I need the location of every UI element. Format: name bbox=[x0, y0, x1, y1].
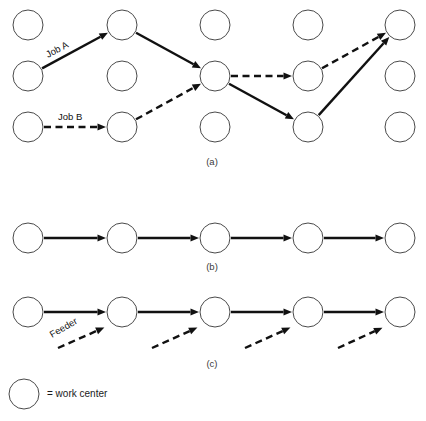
panel-c-main-seg-1-arrowhead bbox=[98, 308, 107, 315]
work-center-node bbox=[293, 10, 323, 40]
panel-c-main-seg-1 bbox=[44, 308, 106, 315]
work-center-node bbox=[200, 112, 230, 142]
panel-caption-a: (a) bbox=[206, 156, 218, 167]
panel-a-job-b-seg-4-arrowhead bbox=[377, 33, 386, 40]
panel-a-job-b-seg-1 bbox=[44, 123, 106, 130]
work-center-node bbox=[385, 10, 415, 40]
panel-b-line-seg-4-arrowhead bbox=[376, 234, 385, 241]
panel-b-line-seg-1-arrowhead bbox=[98, 234, 107, 241]
panels-layer: Job AJob B(a)(b)Feeder(c) bbox=[13, 10, 415, 369]
panel-b-line-seg-3 bbox=[231, 234, 292, 241]
job-b-label: Job B bbox=[58, 111, 82, 122]
panel-c-main-seg-2-arrowhead bbox=[191, 308, 200, 315]
work-center-node bbox=[107, 61, 137, 91]
work-center-node bbox=[385, 223, 415, 253]
panel-c-feeder-arrow-1-arrowhead bbox=[95, 327, 104, 334]
work-center-node bbox=[107, 297, 137, 327]
work-center-node bbox=[13, 61, 43, 91]
legend-work-center-icon bbox=[9, 379, 39, 409]
panel-a: Job AJob B(a) bbox=[13, 10, 415, 167]
panel-c-feeder-arrow-2-shaft bbox=[152, 331, 190, 348]
panel-a-job-a-seg-3 bbox=[229, 84, 294, 120]
panel-a-job-a-seg-2-shaft bbox=[136, 33, 193, 65]
panel-b-line-seg-1 bbox=[44, 234, 106, 241]
work-center-node bbox=[200, 10, 230, 40]
panel-c-feeder-arrow-2 bbox=[152, 328, 197, 348]
panel-c-main-seg-4-arrowhead bbox=[376, 308, 385, 315]
panel-c-main-seg-3-arrowhead bbox=[284, 308, 293, 315]
panel-a-job-a-seg-2 bbox=[136, 33, 201, 69]
work-center-node bbox=[200, 297, 230, 327]
panel-a-job-b-seg-2-shaft bbox=[136, 88, 193, 120]
work-center-node bbox=[293, 223, 323, 253]
legend-layer: = work center bbox=[9, 379, 108, 409]
work-center-node bbox=[293, 112, 323, 142]
panel-a-job-b-seg-3 bbox=[231, 72, 292, 79]
panel-b: (b) bbox=[13, 223, 415, 272]
figure-root: Job AJob B(a)(b)Feeder(c) = work center bbox=[0, 0, 426, 421]
work-center-node bbox=[13, 112, 43, 142]
work-center-node bbox=[13, 297, 43, 327]
panel-b-line-seg-4 bbox=[324, 234, 384, 241]
panel-c-feeder-arrow-4-shaft bbox=[338, 331, 375, 348]
panel-a-job-a-seg-4 bbox=[319, 37, 390, 115]
panel-a-job-a-seg-3-shaft bbox=[229, 84, 286, 116]
panel-c-feeder-arrow-3 bbox=[245, 328, 290, 348]
panel-c-main-seg-4 bbox=[324, 308, 384, 315]
job-a-label: Job A bbox=[44, 39, 71, 60]
panel-a-job-b-seg-3-arrowhead bbox=[284, 72, 293, 79]
work-center-flow-diagram: Job AJob B(a)(b)Feeder(c) = work center bbox=[0, 0, 426, 421]
panel-c-feeder-arrow-4 bbox=[338, 328, 382, 348]
work-center-node bbox=[107, 10, 137, 40]
work-center-node bbox=[200, 61, 230, 91]
work-center-node bbox=[293, 297, 323, 327]
legend-label: = work center bbox=[47, 388, 108, 399]
panel-a-job-b-seg-1-arrowhead bbox=[98, 123, 107, 130]
panel-a-job-b-seg-2 bbox=[136, 84, 201, 120]
panel-c-main-seg-2 bbox=[138, 308, 199, 315]
work-center-node bbox=[200, 223, 230, 253]
panel-caption-b: (b) bbox=[206, 261, 218, 272]
panel-c-feeder-arrow-3-shaft bbox=[245, 331, 283, 348]
work-center-node bbox=[13, 223, 43, 253]
panel-a-job-b-seg-2-arrowhead bbox=[192, 84, 201, 91]
work-center-node bbox=[107, 112, 137, 142]
panel-c-main-seg-3 bbox=[231, 308, 292, 315]
panel-b-line-seg-2 bbox=[138, 234, 199, 241]
work-center-node bbox=[107, 223, 137, 253]
panel-a-job-a-seg-4-shaft bbox=[319, 43, 384, 115]
work-center-node bbox=[385, 61, 415, 91]
panel-b-line-seg-2-arrowhead bbox=[191, 234, 200, 241]
panel-caption-c: (c) bbox=[206, 358, 217, 369]
panel-c: Feeder(c) bbox=[13, 297, 415, 369]
panel-b-line-seg-3-arrowhead bbox=[284, 234, 293, 241]
work-center-node bbox=[385, 112, 415, 142]
feeder-label: Feeder bbox=[48, 315, 80, 340]
work-center-node bbox=[293, 61, 323, 91]
work-center-node bbox=[385, 297, 415, 327]
work-center-node bbox=[13, 10, 43, 40]
panel-a-job-b-seg-4-shaft bbox=[322, 37, 379, 68]
